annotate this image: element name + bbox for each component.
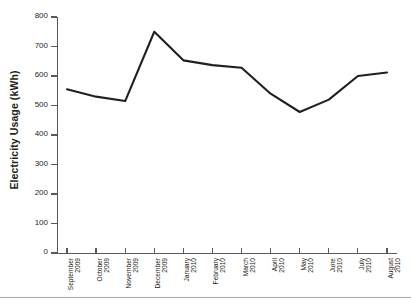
x-axis-tick-label-text: January2010 bbox=[183, 258, 198, 281]
x-axis-tick-label-text: July2010 bbox=[358, 258, 373, 273]
y-axis-tick-label: 700 bbox=[22, 42, 48, 52]
y-axis-title-text: Electricity Usage (kWh) bbox=[7, 71, 19, 190]
y-axis-tick-label-text: 0 bbox=[22, 248, 48, 256]
y-axis-tick-label-text: 500 bbox=[22, 101, 48, 109]
y-axis-tick-label: 0 bbox=[22, 248, 48, 258]
x-axis-tick-label-text: May2010 bbox=[300, 258, 315, 273]
y-axis-tick-label-text: 800 bbox=[22, 12, 48, 20]
x-axis-tick-label-text: February2010 bbox=[212, 258, 227, 284]
y-axis-tick-label-text: 400 bbox=[22, 130, 48, 138]
y-axis-tick-label-text: 700 bbox=[22, 42, 48, 50]
y-axis-tick-label: 200 bbox=[22, 189, 48, 199]
x-axis-line bbox=[57, 253, 397, 254]
y-axis-tick-label: 500 bbox=[22, 101, 48, 111]
y-axis-tick-label-text: 200 bbox=[22, 189, 48, 197]
x-axis-tick-label-text: March2010 bbox=[242, 258, 257, 276]
chart-figure: Electricity Usage (kWh) 8007006005004003… bbox=[0, 0, 411, 307]
plot-area bbox=[57, 17, 395, 253]
y-axis-tick-label-text: 600 bbox=[22, 71, 48, 79]
line-series-path bbox=[67, 32, 387, 112]
x-axis-tick-label-text: August2010 bbox=[387, 258, 402, 279]
y-axis-tick-label-text: 300 bbox=[22, 160, 48, 168]
x-axis-tick-label-text: April2010 bbox=[271, 258, 286, 273]
y-axis-tick-label: 300 bbox=[22, 160, 48, 170]
x-axis-tick-label-text: June2010 bbox=[329, 258, 344, 273]
bottom-divider bbox=[0, 297, 411, 298]
x-axis-tick-label-text: October2009 bbox=[96, 258, 111, 281]
line-series-svg bbox=[57, 17, 395, 253]
x-axis-tick-label-text: November2009 bbox=[125, 258, 140, 288]
x-axis-tick-label-text: December2009 bbox=[154, 258, 169, 288]
y-axis-tick-label-text: 100 bbox=[22, 219, 48, 227]
y-axis-tick-label: 100 bbox=[22, 219, 48, 229]
y-axis-tick-label: 400 bbox=[22, 130, 48, 140]
x-axis-tick-label-text: September2009 bbox=[67, 258, 82, 290]
y-axis-tick-label: 600 bbox=[22, 71, 48, 81]
y-axis-tick-label: 800 bbox=[22, 12, 48, 22]
